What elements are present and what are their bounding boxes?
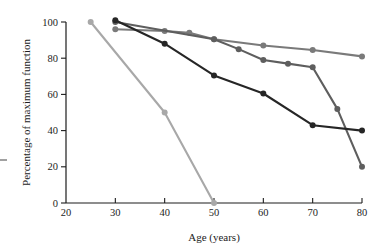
data-point-marker [260, 91, 266, 97]
series-line [115, 22, 362, 167]
data-point-marker [162, 110, 168, 116]
x-tick-label: 30 [110, 207, 121, 218]
series-line [115, 20, 362, 130]
data-point-marker [162, 41, 168, 47]
data-series-group [88, 17, 365, 206]
data-point-marker [260, 57, 266, 63]
y-tick-label: 40 [48, 125, 59, 136]
x-tick-label: 70 [307, 207, 318, 218]
data-point-marker [334, 106, 340, 112]
y-axis-title: Percentage of maximum function [20, 39, 32, 186]
x-tick-label: 60 [258, 207, 269, 218]
data-point-marker [260, 43, 266, 49]
data-point-marker [359, 53, 365, 59]
data-point-marker [310, 47, 316, 53]
x-tick-label: 40 [159, 207, 170, 218]
data-point-marker [310, 64, 316, 70]
series-line [115, 29, 362, 56]
chart-container: 02040608010020304050607080 Age (years)Pe… [0, 0, 374, 250]
data-series [112, 26, 365, 59]
x-axis-title: Age (years) [188, 231, 240, 244]
data-point-marker [236, 46, 242, 52]
y-tick-label: 20 [48, 161, 59, 172]
chart-axes [66, 22, 362, 203]
data-series [112, 17, 365, 133]
data-point-marker [310, 122, 316, 128]
data-point-marker [359, 164, 365, 170]
series-line [91, 22, 214, 203]
x-tick-label: 20 [61, 207, 72, 218]
x-tick-label: 50 [209, 207, 220, 218]
data-point-marker [211, 36, 217, 42]
data-point-marker [359, 128, 365, 134]
data-point-marker [112, 17, 118, 23]
y-tick-label: 80 [48, 53, 59, 64]
data-series [88, 19, 217, 206]
data-point-marker [285, 61, 291, 67]
data-point-marker [211, 72, 217, 78]
data-point-marker [211, 200, 217, 206]
data-point-marker [112, 26, 118, 32]
y-tick-label: 100 [42, 17, 58, 28]
x-tick-label: 80 [357, 207, 368, 218]
data-point-marker [88, 19, 94, 25]
line-chart: 02040608010020304050607080 Age (years)Pe… [0, 0, 374, 250]
y-tick-label: 60 [48, 89, 59, 100]
y-tick-label: 0 [53, 198, 58, 209]
axis-ticks [61, 22, 362, 203]
